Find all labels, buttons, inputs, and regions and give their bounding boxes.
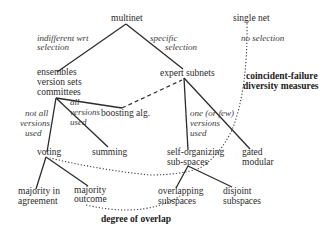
node-voting: voting bbox=[37, 147, 62, 157]
edge-voting-outcome bbox=[46, 157, 88, 186]
node-expert-subnets: expert subnets bbox=[160, 68, 215, 78]
label-not-all-line1: not all bbox=[25, 108, 49, 118]
node-ensembles-line1: ensembles bbox=[37, 67, 77, 77]
node-disjoint-line1: disjoint bbox=[223, 186, 252, 196]
node-multinet: multinet bbox=[111, 13, 143, 23]
label-all-line1: all bbox=[70, 97, 80, 107]
label-not-all-line2: versions bbox=[20, 118, 50, 128]
node-selforg-line2: sub-spaces bbox=[167, 157, 208, 167]
node-majority-agreement-line2: agreement bbox=[18, 196, 58, 206]
multinet-taxonomy-diagram: multinet single net ensembles version se… bbox=[0, 0, 333, 238]
label-one-or-few-line3: used bbox=[190, 128, 207, 138]
node-majority-outcome-line2: outcome bbox=[74, 194, 107, 204]
node-summing: summing bbox=[92, 147, 128, 157]
node-disjoint-line2: subspaces bbox=[223, 196, 261, 206]
edge-selforg-overlapping bbox=[176, 166, 188, 188]
node-overlapping-line2: subspaces bbox=[158, 196, 196, 206]
label-one-or-few-line2: versions bbox=[190, 118, 220, 128]
label-indifferent-line2: selection bbox=[37, 42, 69, 52]
node-gated-line1: gated bbox=[242, 147, 263, 157]
node-majority-agreement-line1: majority in bbox=[18, 186, 60, 196]
edge-voting-agreement bbox=[36, 157, 46, 189]
edge-expert-selforg bbox=[184, 78, 188, 150]
label-no-selection: no selection bbox=[241, 33, 285, 43]
label-all-line3: used bbox=[70, 117, 87, 127]
node-overlapping-line1: overlapping bbox=[158, 186, 204, 196]
label-all-line2: versions bbox=[70, 107, 100, 117]
node-single-net: single net bbox=[233, 13, 270, 23]
node-ensembles-line2: version sets bbox=[37, 77, 82, 87]
node-boosting: boosting alg. bbox=[101, 108, 150, 118]
annotation-coincident-line1: coincident-failure bbox=[246, 71, 318, 81]
node-gated-line2: modular bbox=[242, 157, 274, 167]
label-not-all-line3: used bbox=[25, 128, 42, 138]
annotation-coincident-line2: diversity measures bbox=[243, 81, 319, 91]
node-selforg-line1: self-organizing bbox=[167, 147, 225, 157]
label-one-or-few-line1: one (or few) bbox=[190, 108, 234, 118]
annotation-degree-of-overlap: degree of overlap bbox=[101, 214, 171, 224]
label-specific-line2: selection bbox=[165, 42, 197, 52]
edge-boosting-expert bbox=[122, 80, 182, 108]
node-ensembles-line3: committees bbox=[37, 87, 81, 97]
